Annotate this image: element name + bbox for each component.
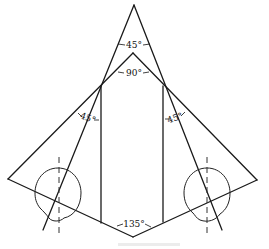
- right-bottom-line: [133, 180, 257, 237]
- left-angle-label: 45°: [79, 111, 97, 126]
- left-angle-annotation: 45°: [78, 111, 99, 126]
- apex-angle-annotation: 45°: [118, 40, 150, 50]
- bottom-angle-label: 135°: [123, 219, 145, 229]
- inner-angle-label: 90°: [126, 68, 142, 78]
- right-angle-annotation: 45°: [165, 111, 185, 126]
- left-bottom-line: [8, 179, 133, 237]
- inner-angle-annotation: 90°: [118, 68, 149, 78]
- right-circle: [184, 168, 230, 221]
- bottom-angle-annotation: 135°: [117, 219, 151, 229]
- apex-angle-label: 45°: [126, 40, 142, 50]
- diagram-svg: 45° 90° 45° 45° 135°: [0, 0, 269, 249]
- right-angle-label: 45°: [166, 111, 184, 126]
- left-90-line: [8, 53, 133, 179]
- angle-diagram: 45° 90° 45° 45° 135°: [0, 0, 269, 249]
- faint-caption: [118, 243, 180, 246]
